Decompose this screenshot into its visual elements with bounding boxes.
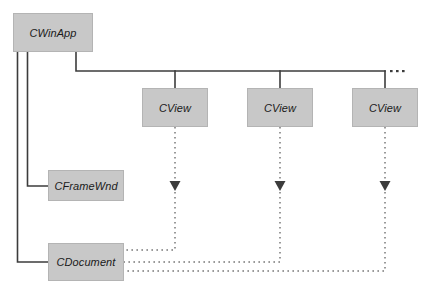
node-cframewnd[interactable]: CFrameWnd: [48, 170, 124, 201]
more-views-ellipsis-icon: [390, 70, 405, 72]
edge-cview-2-to-cdocument: [124, 127, 280, 262]
node-cview-3-label: CView: [369, 102, 401, 114]
node-cview-1[interactable]: CView: [142, 88, 208, 127]
node-cdocument[interactable]: CDocument: [48, 243, 124, 281]
edge-cwinapp-to-cframewnd: [28, 52, 49, 186]
node-cframewnd-label: CFrameWnd: [54, 180, 117, 192]
class-diagram-canvas: CWinApp CView CView CView CFrameWnd CDoc…: [0, 0, 438, 293]
node-cdocument-label: CDocument: [57, 256, 116, 268]
node-cwinapp[interactable]: CWinApp: [13, 13, 93, 52]
arrowhead-cview-3: [380, 181, 391, 191]
node-cview-2[interactable]: CView: [247, 88, 313, 127]
node-cview-2-label: CView: [264, 102, 296, 114]
edge-cview-3-to-cdocument: [124, 127, 385, 271]
node-cview-1-label: CView: [159, 102, 191, 114]
node-cwinapp-label: CWinApp: [29, 27, 76, 39]
edge-cwinapp-to-view-bus: [76, 52, 385, 71]
node-cview-3[interactable]: CView: [352, 88, 418, 127]
arrowhead-cview-1: [170, 181, 181, 191]
edge-cview-1-to-cdocument: [124, 127, 175, 250]
arrowhead-cview-2: [275, 181, 286, 191]
edge-cwinapp-to-cdocument: [18, 52, 49, 262]
